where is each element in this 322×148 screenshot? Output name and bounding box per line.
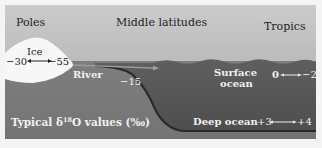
surface-ocean-label-line2: ocean [220, 79, 253, 89]
caption-prefix: Typical δ [11, 116, 63, 128]
diagram-frame: Poles Middle latitudes Tropics Ice −30 −… [5, 5, 316, 139]
surface-ocean-max-value: −2 [302, 70, 316, 80]
ice-max-value: −55 [48, 57, 69, 67]
deep-ocean-min-value: +3 [257, 117, 272, 127]
region-middle-latitudes: Middle latitudes [116, 17, 207, 28]
ice-label: Ice [27, 47, 42, 57]
deep-ocean-label: Deep ocean [193, 117, 258, 127]
surface-ocean-min-value: 0 [272, 70, 279, 80]
region-tropics: Tropics [264, 21, 306, 32]
river-value: −15 [120, 77, 141, 87]
caption-superscript: 18 [63, 116, 72, 124]
surface-ocean-label-line1: Surface [214, 68, 257, 78]
caption-suffix: O values (‰) [72, 116, 150, 128]
ice-min-value: −30 [6, 57, 27, 67]
deep-ocean-max-value: +4 [297, 117, 312, 127]
caption-delta18o: Typical δ18O values (‰) [11, 117, 150, 128]
river-label: River [73, 70, 103, 80]
region-poles: Poles [16, 17, 45, 28]
